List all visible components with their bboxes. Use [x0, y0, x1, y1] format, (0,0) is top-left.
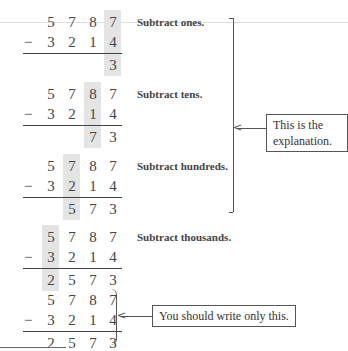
step-3-difference-digit: 3: [105, 199, 121, 219]
step-3-minuend-digit: 7: [64, 156, 80, 176]
step-4-minuend-digit: 7: [64, 227, 80, 247]
final-difference-digit: 2: [43, 333, 59, 351]
explanation-line-2: explanation.: [273, 133, 341, 149]
step-4-subtrahend-digit: 4: [105, 247, 121, 267]
step-1-minuend-digit: 7: [64, 12, 80, 32]
step-4-sum-rule: [23, 268, 122, 269]
step-3-difference-digit: 7: [85, 199, 101, 219]
explanation-callout: This is the explanation.: [266, 114, 348, 152]
step-1-sum-rule: [23, 53, 122, 54]
step-4-subtrahend-digit: 2: [64, 247, 80, 267]
step-4-difference-digit: 5: [64, 270, 80, 290]
step-2-difference-digit: 3: [105, 127, 121, 147]
final-minus-sign: −: [24, 310, 32, 330]
step-1-minuend-digit: 5: [43, 12, 59, 32]
step-2-minuend-digit: 7: [64, 84, 80, 104]
step-1-minus-sign: −: [24, 32, 32, 52]
arrow-left-icon: <: [117, 311, 126, 321]
step-4-difference-digit: 7: [85, 270, 101, 290]
final-difference-digit: 5: [64, 333, 80, 351]
step-2-subtrahend-digit: 2: [64, 104, 80, 124]
step-2-minuend-digit: 7: [105, 84, 121, 104]
bracket-bottom-tick: [229, 212, 233, 213]
step-4-minuend-digit: 5: [43, 227, 59, 247]
step-1-minuend-digit: 7: [105, 12, 121, 32]
final-minuend-digit: 7: [64, 290, 80, 310]
step-1-difference-digit: 3: [105, 55, 121, 75]
write-only-text: You should write only this.: [159, 309, 289, 323]
step-3-subtrahend-digit: 3: [43, 176, 59, 196]
arrow-left-icon: <: [233, 123, 242, 133]
step-2-subtrahend-digit: 3: [43, 104, 59, 124]
step-4-minuend-digit: 8: [85, 227, 101, 247]
final-sum-rule: [23, 331, 122, 332]
step-2-label: Subtract tens.: [137, 88, 202, 100]
step-2-subtrahend-digit: 4: [105, 104, 121, 124]
final-minuend-digit: 5: [43, 290, 59, 310]
step-2-subtrahend-digit: 1: [85, 104, 101, 124]
step-2-sum-rule: [23, 125, 122, 126]
step-1-label: Subtract ones.: [137, 16, 204, 28]
final-bracket: [110, 289, 117, 345]
write-only-callout: You should write only this.: [152, 305, 296, 327]
step-3-sum-rule: [23, 197, 122, 198]
step-3-label: Subtract hundreds.: [137, 160, 228, 172]
step-3-difference-digit: 5: [64, 199, 80, 219]
step-1-minuend-digit: 8: [85, 12, 101, 32]
final-subtrahend-digit: 1: [85, 310, 101, 330]
footer-rule: [0, 347, 66, 348]
step-3-minus-sign: −: [24, 176, 32, 196]
step-4-minuend-digit: 7: [105, 227, 121, 247]
step-4-difference-digit: 2: [43, 270, 59, 290]
step-4-subtrahend-digit: 1: [85, 247, 101, 267]
step-3-minuend-digit: 7: [105, 156, 121, 176]
step-2-minuend-digit: 8: [85, 84, 101, 104]
final-minuend-digit: 8: [85, 290, 101, 310]
step-4-subtrahend-digit: 3: [43, 247, 59, 267]
explanation-line-1: This is the: [273, 117, 341, 133]
step-1-subtrahend-digit: 1: [85, 32, 101, 52]
bracket-top-tick: [229, 18, 233, 19]
step-4-minus-sign: −: [24, 247, 32, 267]
step-3-minuend-digit: 5: [43, 156, 59, 176]
step-4-label: Subtract thousands.: [137, 231, 231, 243]
final-difference-digit: 7: [85, 333, 101, 351]
step-2-difference-digit: 7: [85, 127, 101, 147]
step-3-subtrahend-digit: 4: [105, 176, 121, 196]
explanation-bracket: [233, 18, 234, 212]
step-2-minuend-digit: 5: [43, 84, 59, 104]
step-2-minus-sign: −: [24, 104, 32, 124]
step-3-subtrahend-digit: 2: [64, 176, 80, 196]
step-3-subtrahend-digit: 1: [85, 176, 101, 196]
step-3-minuend-digit: 8: [85, 156, 101, 176]
step-1-subtrahend-digit: 2: [64, 32, 80, 52]
step-4-difference-digit: 3: [105, 270, 121, 290]
step-1-subtrahend-digit: 4: [105, 32, 121, 52]
step-1-subtrahend-digit: 3: [43, 32, 59, 52]
final-subtrahend-digit: 2: [64, 310, 80, 330]
final-subtrahend-digit: 3: [43, 310, 59, 330]
